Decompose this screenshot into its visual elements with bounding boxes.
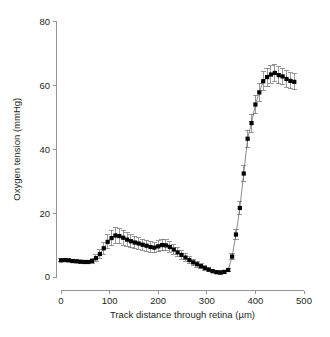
y-axis-title: Oxygen tension (mmHg)	[11, 98, 22, 201]
data-point-marker	[74, 259, 78, 263]
data-point-marker	[94, 256, 98, 260]
data-point-marker	[90, 259, 94, 263]
data-point-marker	[218, 270, 222, 274]
data-point-marker	[71, 259, 75, 263]
data-point-marker	[152, 246, 156, 250]
data-point-marker	[265, 75, 269, 79]
x-tick-label: 300	[199, 295, 215, 306]
data-point-marker	[63, 258, 67, 262]
data-point-marker	[117, 234, 121, 238]
data-point-marker	[242, 171, 246, 175]
data-point-marker	[230, 254, 234, 258]
data-point-marker	[253, 102, 257, 106]
data-point-marker	[78, 260, 82, 264]
data-point-marker	[249, 121, 253, 125]
data-point-marker	[176, 250, 180, 254]
data-point-marker	[288, 79, 292, 83]
y-axis-ticks: 020406080	[39, 16, 56, 283]
data-point-marker	[238, 206, 242, 210]
y-axis: 020406080	[39, 16, 56, 283]
data-point-marker	[121, 236, 125, 240]
oxygen-tension-chart: 020406080 0100200300400500 Track distanc…	[0, 0, 330, 337]
data-point-marker	[273, 71, 277, 75]
data-point-marker	[160, 243, 164, 247]
data-point-marker	[261, 79, 265, 83]
data-point-marker	[214, 270, 218, 274]
x-axis: 0100200300400500	[58, 291, 312, 307]
data-point-marker	[86, 260, 90, 264]
data-point-marker	[222, 270, 226, 274]
data-point-marker	[199, 264, 203, 268]
x-tick-label: 200	[150, 295, 166, 306]
data-point-marker	[109, 236, 113, 240]
x-tick-label: 500	[296, 295, 312, 306]
x-tick-label: 0	[58, 295, 63, 306]
data-point-marker	[277, 73, 281, 77]
x-tick-label: 100	[102, 295, 118, 306]
data-point-marker	[203, 266, 207, 270]
data-point-marker	[144, 244, 148, 248]
data-point-marker	[106, 240, 110, 244]
data-point-marker	[164, 243, 168, 247]
data-point-marker	[269, 72, 273, 76]
x-axis-title: Track distance through retina (µm)	[110, 309, 255, 320]
y-tick-label: 80	[39, 16, 50, 27]
data-point-marker	[168, 245, 172, 249]
data-point-marker	[257, 90, 261, 94]
y-tick-label: 0	[45, 271, 50, 282]
data-point-marker	[226, 268, 230, 272]
data-point-marker	[187, 258, 191, 262]
error-bars-group	[58, 64, 296, 274]
data-point-marker	[246, 137, 250, 141]
data-point-marker	[156, 244, 160, 248]
y-tick-label: 40	[39, 144, 50, 155]
data-point-marker	[148, 245, 152, 249]
data-point-marker	[133, 240, 137, 244]
data-point-marker	[137, 241, 141, 245]
data-point-marker	[113, 233, 117, 237]
data-point-marker	[82, 260, 86, 264]
data-point-marker	[284, 77, 288, 81]
data-point-marker	[191, 260, 195, 264]
data-point-marker	[172, 247, 176, 251]
data-point-marker	[195, 262, 199, 266]
data-point-marker	[234, 232, 238, 236]
y-tick-label: 60	[39, 80, 50, 91]
data-point-marker	[292, 80, 296, 84]
data-point-marker	[141, 243, 145, 247]
data-point-marker	[59, 258, 63, 262]
data-point-marker	[129, 239, 133, 243]
data-point-marker	[281, 74, 285, 78]
data-point-marker	[183, 255, 187, 259]
x-axis-ticks: 0100200300400500	[58, 291, 312, 307]
chart-canvas: 020406080 0100200300400500 Track distanc…	[0, 0, 330, 337]
data-point-marker	[179, 253, 183, 257]
data-point-marker	[102, 246, 106, 250]
y-tick-label: 20	[39, 208, 50, 219]
data-point-marker	[211, 269, 215, 273]
x-tick-label: 400	[247, 295, 263, 306]
data-point-marker	[98, 252, 102, 256]
data-point-marker	[207, 268, 211, 272]
data-point-marker	[125, 238, 129, 242]
series-line-oxygen-tension	[61, 73, 294, 273]
data-point-marker	[67, 258, 71, 262]
